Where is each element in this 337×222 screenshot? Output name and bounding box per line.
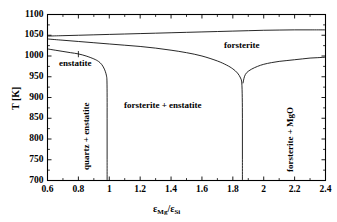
y-tick-label: 900 <box>20 92 44 102</box>
x-tick-label: 1.8 <box>224 184 242 194</box>
y-tick-label: 1100 <box>20 9 44 19</box>
x-tick-label: 0.8 <box>69 184 87 194</box>
region-label-forsterite-enstatite: forsterite + enstatite <box>124 100 202 110</box>
y-tick-label: 850 <box>20 112 44 122</box>
y-tick-label: 1050 <box>20 29 44 39</box>
y-tick-label: 800 <box>20 133 44 143</box>
x-axis-title-sub-mg: Mg <box>157 208 167 216</box>
curve-mgo-boundary <box>243 57 325 83</box>
x-tick-label: 1.6 <box>193 184 211 194</box>
x-tick-label: 1.2 <box>131 184 149 194</box>
curve-upper-condensation-curve <box>48 30 326 36</box>
region-label-quartz-enstatite: quartz + enstatite <box>81 102 91 170</box>
region-label-forsterite: forsterite <box>224 40 259 50</box>
y-tick-label: 950 <box>20 71 44 81</box>
x-tick-label: 2.4 <box>317 184 335 194</box>
region-label-enstatite: enstatite <box>59 58 92 68</box>
x-tick-label: 1.4 <box>162 184 180 194</box>
x-tick-label: 0.6 <box>39 184 57 194</box>
x-axis-title: εMg/εSi <box>153 203 180 216</box>
region-label-forsterite-mgo: forsterite + MgO <box>285 107 295 172</box>
y-tick-label: 700 <box>20 175 44 185</box>
x-tick-label: 1 <box>100 184 118 194</box>
phase-diagram-figure: T [K] εMg/εSi forsterite enstatite forst… <box>0 0 337 222</box>
x-tick-label: 2 <box>255 184 273 194</box>
x-tick-label: 2.2 <box>286 184 304 194</box>
y-tick-label: 1000 <box>20 50 44 60</box>
x-axis-title-sub-si: Si <box>174 208 180 216</box>
y-tick-label: 750 <box>20 154 44 164</box>
curve-enstatite-lower-boundary <box>48 49 108 181</box>
